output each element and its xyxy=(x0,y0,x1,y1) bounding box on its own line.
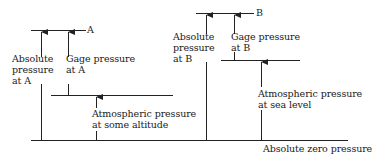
absolute-a-label-line1: Absolute xyxy=(12,53,53,64)
absolute-a-label-line2: pressure xyxy=(12,64,53,75)
atm-altitude-label: Atmospheric pressure at some altitude xyxy=(92,108,196,130)
absolute-a-label-line3: at A xyxy=(12,75,53,86)
point-a-label: A xyxy=(87,24,94,35)
gage-a-label-line1: Gage pressure xyxy=(66,53,135,64)
absolute-b-label: Absolute pressure at B xyxy=(173,31,214,64)
atm-sea-level-label-line2: at sea level xyxy=(258,99,362,110)
atm-sea-level-label: Atmospheric pressure at sea level xyxy=(258,88,362,110)
absolute-b-label-line2: pressure xyxy=(173,42,214,53)
gage-a-label-line2: at A xyxy=(66,64,135,75)
gage-b-label-line2: at B xyxy=(231,42,300,53)
gage-b-label-line1: Gage pressure xyxy=(231,31,300,42)
absolute-b-label-line1: Absolute xyxy=(173,31,214,42)
atm-altitude-label-line1: Atmospheric pressure xyxy=(92,108,196,119)
gage-a-label: Gage pressure at A xyxy=(66,53,135,75)
atm-altitude-label-line2: at some altitude xyxy=(92,119,196,130)
atm-sea-level-label-line1: Atmospheric pressure xyxy=(258,88,362,99)
gage-b-label: Gage pressure at B xyxy=(231,31,300,53)
absolute-b-label-line3: at B xyxy=(173,53,214,64)
absolute-zero-label: Absolute zero pressure xyxy=(263,143,372,154)
point-b-label: B xyxy=(256,7,263,18)
absolute-a-label: Absolute pressure at A xyxy=(12,53,53,86)
